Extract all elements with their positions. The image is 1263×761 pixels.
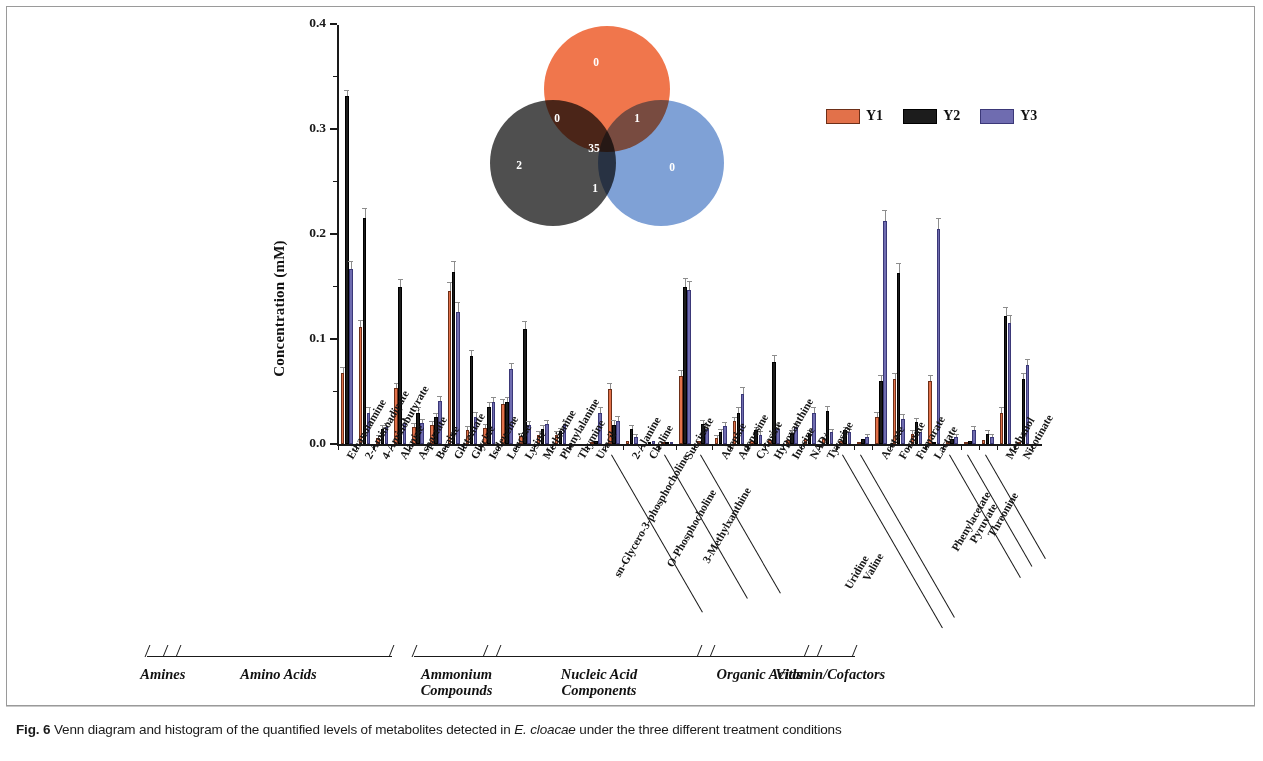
error-bar-cap: [882, 210, 887, 211]
y-axis-tick-label-wrap: 0.3: [286, 120, 326, 136]
error-bar: [507, 398, 508, 402]
y-axis-tick-label: 0.3: [292, 120, 326, 136]
legend-swatch-y3: [980, 109, 1014, 124]
error-bar: [738, 408, 739, 412]
error-bar: [734, 418, 735, 421]
error-bar-cap: [829, 429, 834, 430]
error-bar-cap: [348, 261, 353, 262]
y-axis-tick-label: 0.2: [292, 225, 326, 241]
bar-y2-adenine: [719, 432, 723, 444]
bar-y2-pyruvate: [968, 441, 972, 444]
bar-y1-adenine: [715, 438, 719, 444]
bar-y2-methanol: [1004, 316, 1008, 444]
y-axis-tick: [330, 338, 337, 339]
error-bar-cap: [598, 407, 603, 408]
category-label-vitamin-cofactors: Vitamin/Cofactors: [720, 666, 940, 682]
venn-count-only-top: 0: [583, 56, 609, 68]
error-bar: [450, 283, 451, 290]
error-bar: [503, 400, 504, 404]
error-bar: [717, 436, 718, 438]
error-bar: [365, 209, 366, 218]
error-bar: [1001, 408, 1002, 412]
category-label-line2: Components: [489, 682, 709, 698]
bar-y2-2-aminoadipate: [363, 218, 367, 444]
x-label-leader-line: [664, 454, 748, 599]
bar-y3-sn-glycero-3-phosphocholine: [616, 421, 620, 444]
category-bracket-amino-acids: [165, 645, 393, 657]
bar-y1-2-alanine: [626, 441, 630, 444]
bar-y3-ethanolamine: [349, 269, 353, 444]
error-bar: [471, 351, 472, 356]
bar-y3-valine: [865, 437, 869, 444]
venn-count-center: 35: [581, 142, 607, 154]
y-axis-tick: [330, 128, 337, 129]
error-bar-cap: [740, 387, 745, 388]
error-bar-cap: [455, 302, 460, 303]
bracket-line: [699, 656, 820, 657]
error-bar: [610, 384, 611, 389]
y-axis-tick-label-wrap: 0.4: [286, 15, 326, 31]
error-bar-cap: [683, 278, 688, 279]
y-axis-tick-label: 0.4: [292, 15, 326, 31]
error-bar-cap: [451, 261, 456, 262]
bracket-line: [165, 656, 393, 657]
error-bar: [885, 211, 886, 222]
error-bar: [360, 321, 361, 327]
error-bar-cap: [469, 350, 474, 351]
legend-item-y3: Y3: [980, 108, 1037, 124]
bar-y3-threonine: [990, 437, 994, 444]
error-bar-cap: [526, 421, 531, 422]
error-bar: [743, 388, 744, 393]
error-bar-cap: [722, 422, 727, 423]
bar-y2-valine: [861, 439, 865, 444]
category-label-line1: Vitamin/Cofactors: [720, 666, 940, 682]
y-axis-tick-label-wrap: 0.0: [286, 435, 326, 451]
error-bar: [881, 376, 882, 381]
error-bar: [511, 364, 512, 369]
error-bar: [930, 376, 931, 381]
error-bar-cap: [522, 321, 527, 322]
error-bar: [400, 280, 401, 286]
error-bar: [458, 303, 459, 311]
y-axis-tick: [330, 23, 337, 24]
error-bar: [832, 430, 833, 432]
bar-y3-glutamate: [456, 312, 460, 444]
bar-y3-acetate: [883, 221, 887, 444]
error-bar: [343, 368, 344, 372]
y-axis-title: Concentration (mM): [271, 184, 288, 434]
bar-y1-ethanolamine: [341, 373, 345, 444]
x-axis-tick: [676, 444, 677, 450]
error-bar: [867, 435, 868, 437]
bar-y2-ethanolamine: [345, 96, 349, 444]
error-bar: [525, 322, 526, 328]
error-bar-cap: [985, 430, 990, 431]
error-bar-cap: [687, 281, 692, 282]
legend-label-y1: Y1: [866, 108, 883, 124]
error-bar: [614, 421, 615, 425]
legend-label-y2: Y2: [943, 108, 960, 124]
error-bar: [1010, 316, 1011, 323]
error-bar-cap: [629, 425, 634, 426]
venn-count-left-right: 1: [582, 182, 608, 194]
error-bar: [493, 398, 494, 402]
error-bar-cap: [1025, 359, 1030, 360]
error-bar: [543, 426, 544, 429]
error-bar-cap: [437, 396, 442, 397]
x-axis-tick: [997, 444, 998, 450]
error-bar: [681, 371, 682, 376]
error-bar: [774, 356, 775, 362]
legend-swatch-y2: [903, 109, 937, 124]
y-axis-tick-label-wrap: 0.2: [286, 225, 326, 241]
bar-y3-pyruvate: [972, 430, 976, 444]
error-bar: [489, 403, 490, 407]
y-axis-tick: [330, 443, 337, 444]
bar-y2-succinate: [683, 287, 687, 445]
error-bar-cap: [544, 420, 549, 421]
bar-y3-lactate: [937, 229, 941, 444]
figure-caption: Fig. 6 Venn diagram and histogram of the…: [16, 722, 1251, 737]
category-bracket-organic-acids: [699, 645, 820, 657]
error-bar-cap: [900, 414, 905, 415]
bar-y3-methanol: [1008, 323, 1012, 444]
error-bar: [725, 423, 726, 426]
venn-count-top-left: 0: [544, 112, 570, 124]
